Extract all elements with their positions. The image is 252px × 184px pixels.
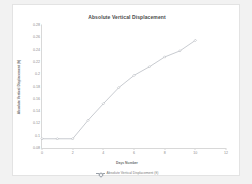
y-tick-label: 0.28	[33, 23, 40, 27]
x-tick-mark	[42, 148, 43, 150]
x-tick-mark	[164, 148, 165, 150]
x-tick-label: 4	[102, 151, 104, 155]
y-tick-label: 0.26	[33, 35, 40, 39]
y-tick-label: 0.24	[33, 48, 40, 52]
y-axis-label: Absolute Vertical Displacement (ft)	[17, 60, 21, 114]
x-tick-label: 0	[41, 151, 43, 155]
y-tick-label: 0.1	[35, 134, 40, 138]
x-tick-label: 2	[72, 151, 74, 155]
data-point-marker	[41, 138, 43, 140]
x-tick-mark	[134, 148, 135, 150]
chart-title: Absolute Vertical Displacement	[13, 14, 241, 20]
x-tick-mark	[195, 148, 196, 150]
x-tick-label: 6	[133, 151, 135, 155]
data-point-marker	[56, 138, 58, 140]
legend-line-swatch	[96, 173, 105, 174]
y-tick-label: 0.14	[33, 109, 40, 113]
x-tick-label: 8	[164, 151, 166, 155]
screenshot-root: Absolute Vertical Displacement Absolute …	[0, 0, 252, 184]
x-tick-mark	[226, 148, 227, 150]
data-line	[42, 40, 195, 138]
y-tick-label: 0.08	[33, 146, 40, 150]
y-tick-label: 0.18	[33, 85, 40, 89]
y-tick-label: 0.2	[35, 72, 40, 76]
y-tick-label: 0.12	[33, 121, 40, 125]
y-tick-label: 0.22	[33, 60, 40, 64]
chart-card: Absolute Vertical Displacement Absolute …	[12, 4, 240, 176]
plot-area: 0.080.10.120.140.160.180.20.220.240.260.…	[41, 25, 226, 149]
y-tick-label: 0.16	[33, 97, 40, 101]
legend-label: Absolute Vertical Displacement (ft)	[107, 171, 159, 175]
x-axis-label: Days Number	[13, 161, 241, 165]
x-tick-label: 12	[224, 151, 228, 155]
x-tick-mark	[103, 148, 104, 150]
chart-legend: Absolute Vertical Displacement (ft)	[13, 171, 241, 175]
x-tick-label: 10	[193, 151, 197, 155]
series-line	[42, 25, 226, 148]
x-tick-mark	[72, 148, 73, 150]
